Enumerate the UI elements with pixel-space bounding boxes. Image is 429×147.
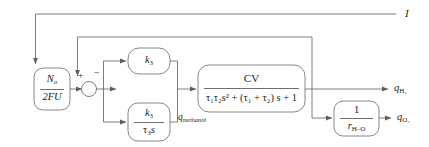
integral-denominator: τ3s xyxy=(128,125,170,137)
signal-label-hydrogen-out: qH₂ xyxy=(394,83,407,95)
summing-junction[interactable] xyxy=(82,82,97,97)
oxygen-ratio-denominator: rH–O xyxy=(334,121,379,133)
input-gain-denominator: 2FU xyxy=(34,92,70,103)
oxygen-ratio-numerator: 1 xyxy=(334,105,379,116)
plant-numerator: CV xyxy=(198,73,305,84)
signal-label-current: I xyxy=(405,8,409,19)
block-diagram-canvas: No 2FU + − k3 k3 τ3s CV τ₁τ₂s² + (τ₁ + τ… xyxy=(0,0,429,147)
proportional-gain-label: k3 xyxy=(128,55,170,67)
wire-current-feedback xyxy=(36,14,397,64)
plant-denominator: τ₁τ₂s² + (τ₁ + τ₂) s + 1 xyxy=(198,93,305,104)
input-gain-numerator: No xyxy=(34,74,70,86)
sum-minus-sign: − xyxy=(94,68,100,78)
integral-numerator: k3 xyxy=(128,108,170,120)
wire-plant-tap-to-oxygen xyxy=(312,37,332,118)
signal-label-oxygen-out: qO₂ xyxy=(397,112,410,124)
signal-label-methanol-flow: qmethanol xyxy=(178,113,206,123)
sum-plus-sign: + xyxy=(78,71,83,80)
